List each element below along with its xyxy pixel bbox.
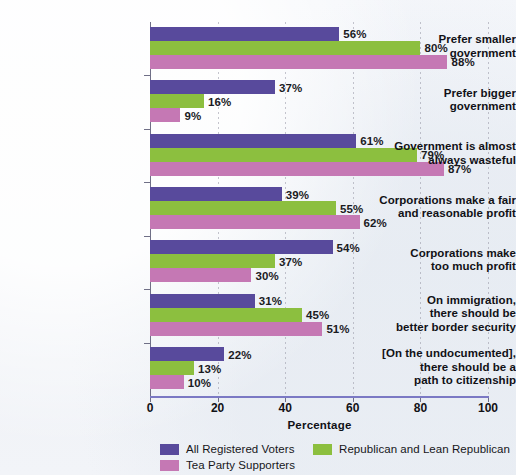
category-label-line: Corporations make (372, 247, 516, 261)
bar[interactable] (150, 361, 194, 375)
category-label-line: there should be a (372, 361, 516, 375)
y-axis-tick (144, 236, 151, 237)
y-axis-tick (144, 75, 151, 76)
category-label-line: Government is almost (372, 140, 516, 154)
bar-value-label: 45% (306, 308, 329, 322)
category-label: On immigration,there should bebetter bor… (372, 294, 516, 335)
x-axis-tick-label: 40 (279, 401, 292, 415)
legend-label: All Registered Voters (186, 443, 294, 455)
bar[interactable] (150, 254, 275, 268)
category-label-line: Corporations make a fair (372, 194, 516, 208)
category-label-line: On immigration, (372, 294, 516, 308)
category-label-line: Prefer bigger (372, 87, 516, 101)
category-label-line: always wasteful (372, 154, 516, 168)
bar-value-label: 54% (337, 241, 360, 255)
y-axis-tick (144, 129, 151, 130)
legend-label: Republican and Lean Republican (339, 443, 510, 455)
category-label: Government is almostalways wasteful (372, 140, 516, 167)
legend-row-2: Tea Party Supporters (160, 457, 510, 473)
y-axis-tick (144, 289, 151, 290)
bar[interactable] (150, 134, 356, 148)
bar[interactable] (150, 108, 180, 122)
legend-item-republican-and-lean-republican[interactable]: Republican and Lean Republican (313, 441, 510, 457)
category-label-line: [On the undocumented], (372, 347, 516, 361)
y-axis-tick (144, 343, 151, 344)
category-label-line: better border security (372, 321, 516, 335)
category-label-line: too much profit (372, 260, 516, 274)
grouped-bar-chart: 56%80%88%37%16%9%61%79%87%39%55%62%54%37… (0, 0, 516, 475)
x-axis-tick-label: 80 (414, 401, 427, 415)
category-label-line: government (372, 47, 516, 61)
x-axis-line (150, 396, 489, 398)
x-axis-tick-label: 60 (346, 401, 359, 415)
bar-value-label: 37% (279, 81, 302, 95)
legend-swatch-icon (160, 460, 179, 471)
category-label: [On the undocumented],there should be ap… (372, 347, 516, 388)
bar-value-label: 22% (228, 348, 251, 362)
legend-item-tea-party-supporters[interactable]: Tea Party Supporters (160, 457, 342, 473)
bar[interactable] (150, 27, 339, 41)
bar[interactable] (150, 201, 336, 215)
chart-legend: All Registered Voters Republican and Lea… (160, 441, 510, 473)
legend-item-all-registered-voters[interactable]: All Registered Voters (160, 441, 313, 457)
category-label: Corporations maketoo much profit (372, 247, 516, 274)
legend-swatch-icon (313, 444, 332, 455)
bar[interactable] (150, 308, 302, 322)
bar-value-label: 39% (286, 188, 309, 202)
legend-swatch-icon (160, 444, 179, 455)
category-label: Corporations make a fairand reasonable p… (372, 194, 516, 221)
bar[interactable] (150, 322, 322, 336)
bar-value-label: 30% (255, 269, 278, 283)
bar-value-label: 55% (340, 202, 363, 216)
category-label-line: Prefer smaller (372, 33, 516, 47)
bar[interactable] (150, 80, 275, 94)
bar-value-label: 16% (208, 95, 231, 109)
category-label-line: path to citizenship (372, 374, 516, 388)
bar-value-label: 9% (184, 109, 201, 123)
bar[interactable] (150, 187, 282, 201)
bar[interactable] (150, 347, 224, 361)
y-axis-tick (144, 182, 151, 183)
x-axis-title: Percentage (150, 419, 489, 431)
category-label-line: government (372, 100, 516, 114)
bar-value-label: 31% (259, 294, 282, 308)
bar-value-label: 51% (326, 322, 349, 336)
bar-value-label: 37% (279, 255, 302, 269)
bar[interactable] (150, 215, 360, 229)
category-label: Prefer biggergovernment (372, 87, 516, 114)
bar[interactable] (150, 240, 333, 254)
bar[interactable] (150, 268, 251, 282)
x-axis-tick-label: 0 (147, 401, 154, 415)
bar-value-label: 13% (198, 362, 221, 376)
bar[interactable] (150, 94, 204, 108)
category-label: Prefer smallergovernment (372, 33, 516, 60)
x-axis-tick-label: 100 (478, 401, 498, 415)
category-label-line: and reasonable profit (372, 207, 516, 221)
category-label-line: there should be (372, 307, 516, 321)
legend-label: Tea Party Supporters (186, 459, 295, 471)
bar[interactable] (150, 375, 184, 389)
bar-value-label: 10% (188, 376, 211, 390)
bar-value-label: 56% (343, 27, 366, 41)
x-axis-tick-label: 20 (211, 401, 224, 415)
bar[interactable] (150, 294, 255, 308)
legend-row-1: All Registered Voters Republican and Lea… (160, 441, 510, 457)
